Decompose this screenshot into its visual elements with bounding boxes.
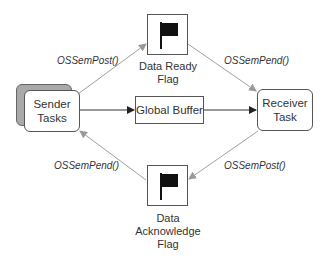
sender-label-line2: Tasks bbox=[37, 111, 66, 125]
ready-flag-label-line1: Data Ready bbox=[132, 60, 204, 73]
buffer-label: Global Buffer bbox=[136, 103, 203, 117]
data-ready-flag-label: Data Ready Flag bbox=[132, 60, 204, 86]
edge-label-receiver-pend: OSSemPend() bbox=[224, 55, 289, 66]
receiver-label-line2: Task bbox=[273, 110, 297, 124]
receiver-label-line1: Receiver bbox=[262, 96, 307, 110]
data-acknowledge-flag-label: Data Acknowledge Flag bbox=[127, 212, 209, 251]
edge-label-sender-post: OSSemPost() bbox=[57, 55, 119, 66]
edge-label-sender-pend: OSSemPend() bbox=[54, 160, 119, 171]
sender-tasks-node[interactable]: Sender Tasks bbox=[24, 90, 80, 132]
edge-receiver-ack-flag bbox=[189, 131, 258, 179]
receiver-task-node[interactable]: Receiver Task bbox=[257, 89, 313, 131]
data-ready-flag-node[interactable] bbox=[147, 14, 188, 55]
ready-flag-label-line2: Flag bbox=[132, 73, 204, 86]
edge-label-receiver-post: OSSemPost() bbox=[224, 160, 286, 171]
flag-icon bbox=[153, 19, 183, 51]
ack-flag-label-line3: Flag bbox=[127, 238, 209, 251]
global-buffer-node[interactable]: Global Buffer bbox=[135, 96, 204, 124]
flag-icon bbox=[153, 170, 183, 202]
edge-ack-flag-sender bbox=[80, 131, 146, 180]
ack-flag-label-line2: Acknowledge bbox=[127, 225, 209, 238]
sender-label-line1: Sender bbox=[33, 97, 70, 111]
data-acknowledge-flag-node[interactable] bbox=[147, 165, 188, 206]
ack-flag-label-line1: Data bbox=[127, 212, 209, 225]
